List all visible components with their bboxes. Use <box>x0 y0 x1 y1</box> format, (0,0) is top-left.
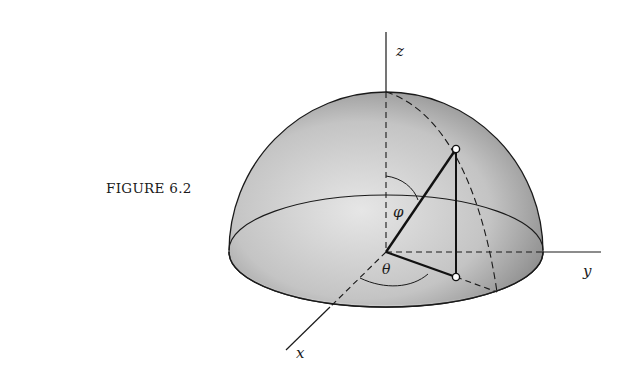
phi-label: φ <box>393 203 404 221</box>
hemisphere-diagram: z y x φ θ <box>0 0 634 380</box>
point-on-surface <box>452 145 459 152</box>
x-axis-label: x <box>296 344 305 362</box>
theta-label: θ <box>382 261 391 277</box>
x-axis <box>286 307 330 350</box>
point-projection <box>452 273 459 280</box>
z-axis-label: z <box>395 42 404 60</box>
y-axis-label: y <box>582 262 592 280</box>
